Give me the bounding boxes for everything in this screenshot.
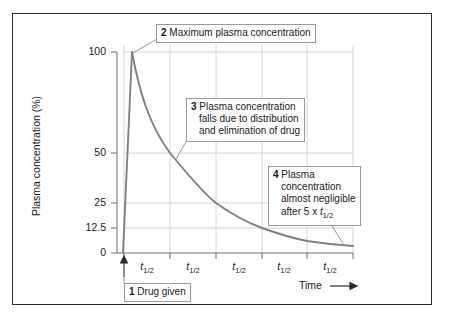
callout-fall-line3: and elimination of drug: [191, 125, 300, 137]
x-tick-sub-4: 1/2: [280, 266, 290, 275]
callout-negl-line4: after 5 x t1/2: [273, 206, 356, 222]
callout-max-number: 2: [161, 27, 167, 38]
x-tick-sub-2: 1/2: [189, 266, 199, 275]
x-axis: [117, 253, 353, 259]
x-tick-sub-5: 1/2: [326, 266, 336, 275]
x-tick-halflife-5: t1/2: [307, 260, 353, 275]
callout-fall-line2: falls due to distribution: [191, 113, 300, 125]
x-tick-halflife-3: t1/2: [216, 260, 262, 275]
y-axis: [111, 52, 117, 253]
callout-dose-text: Drug given: [137, 286, 185, 297]
callout-dose-number: 1: [129, 286, 135, 297]
y-tick-25: 25: [60, 196, 106, 208]
x-tick-sub-1: 1/2: [143, 266, 153, 275]
callout-negl-number: 4: [273, 169, 279, 180]
time-arrow-icon: [330, 283, 357, 289]
y-tick-0: 0: [60, 246, 106, 258]
x-tick-halflife-1: t1/2: [124, 260, 170, 275]
callout-negl-line4-sub: 1/2: [323, 211, 333, 220]
callout-fall-number: 3: [191, 101, 197, 112]
leader-line-fall: [176, 140, 187, 159]
callout-negl-line3: almost negligible: [273, 193, 356, 205]
callout-concentration-falls: 3 Plasma concentration falls due to dist…: [186, 98, 305, 142]
y-axis-label: Plasma concentration (%): [30, 71, 42, 241]
callout-negl-line1: Plasma: [281, 169, 314, 180]
callout-max-text: Maximum plasma concentration: [169, 27, 310, 38]
callout-max-concentration: 2 Maximum plasma concentration: [156, 24, 316, 43]
callout-drug-given: 1 Drug given: [124, 283, 191, 302]
callout-fall-line1: Plasma concentration: [199, 101, 295, 112]
x-axis-label: Time: [299, 279, 322, 291]
x-tick-halflife-2: t1/2: [170, 260, 216, 275]
leader-line-max: [133, 39, 157, 53]
x-tick-sub-3: 1/2: [235, 266, 245, 275]
y-tick-12-5: 12.5: [60, 221, 106, 233]
callout-negligible-concentration: 4 Plasma concentration almost negligible…: [268, 166, 361, 226]
x-tick-halflife-4: t1/2: [261, 260, 307, 275]
y-tick-100: 100: [60, 45, 106, 57]
callout-negl-line2: concentration: [273, 181, 356, 193]
y-tick-50: 50: [60, 146, 106, 158]
callout-negl-line4-pre: after 5 x: [281, 206, 320, 217]
pharmacokinetics-figure: Plasma concentration (%) 100 50 25 12.5 …: [0, 0, 452, 322]
